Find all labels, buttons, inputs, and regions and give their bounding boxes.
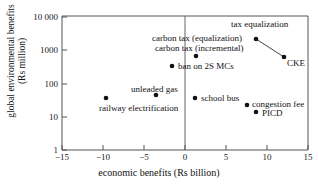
label-unleaded-gas: unleaded gas xyxy=(131,85,178,94)
label-carbon-tax-incremental: carbon tax (incremental) xyxy=(155,44,243,53)
point-picd[interactable] xyxy=(254,110,259,115)
point-carbon-tax-incremental[interactable] xyxy=(194,54,199,59)
point-congestion-fee[interactable] xyxy=(245,103,250,108)
scatter-chart-figure: 10 000 1000 100 10 1 −15 −10 −5 0 5 10 1… xyxy=(0,0,318,187)
label-tax-equalization: tax equalization xyxy=(231,20,288,29)
y-axis-title-line1: global environmental benefits xyxy=(6,0,17,131)
label-picd: PICD xyxy=(262,109,283,118)
connector-taxeq-cke xyxy=(256,39,284,57)
point-ban-on-2s-mcs[interactable] xyxy=(170,64,175,69)
x-axis-title: economic benefits (Rs billion) xyxy=(0,167,318,178)
label-ban-on-2s-mcs: ban on 2S MCs xyxy=(178,62,234,71)
xtick-label-minus10: −10 xyxy=(83,153,123,162)
point-cke[interactable] xyxy=(282,55,287,60)
label-carbon-tax-equalization: carbon tax (equalization) xyxy=(152,34,242,43)
xtick-label-15: 15 xyxy=(288,153,318,162)
xtick-label-0: 0 xyxy=(165,153,205,162)
xtick-label-10: 10 xyxy=(247,153,287,162)
xtick-label-minus5: −5 xyxy=(124,153,164,162)
label-school-bus: school bus xyxy=(201,94,239,103)
point-school-bus[interactable] xyxy=(193,96,198,101)
xtick-label-minus15: −15 xyxy=(42,153,82,162)
point-railway-electrification[interactable] xyxy=(104,96,109,101)
y-axis-title-line2: (Rs million) xyxy=(17,0,28,131)
label-railway-electrification: railway electrification xyxy=(99,104,178,113)
point-tax-equalization[interactable] xyxy=(254,37,259,42)
xtick-label-5: 5 xyxy=(206,153,246,162)
label-cke: CKE xyxy=(287,59,305,68)
y-axis-title: global environmental benefits (Rs millio… xyxy=(6,0,30,131)
